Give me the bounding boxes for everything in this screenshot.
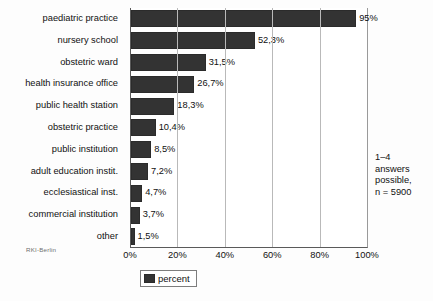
gridline <box>272 8 273 247</box>
bar-row: 18,3% <box>131 95 367 117</box>
bar-row: 3,7% <box>131 204 367 226</box>
bar-row: 8,5% <box>131 139 367 161</box>
annotation-line-2: answers <box>375 164 433 176</box>
bar <box>131 141 151 158</box>
category-label: other <box>0 226 124 248</box>
bar-value-label: 10,4% <box>156 119 185 136</box>
gridline <box>225 8 226 247</box>
bar-chart-figure: paediatric practicenursery schoolobstetr… <box>0 0 433 301</box>
category-label: public health station <box>0 95 124 117</box>
category-label: commercial institution <box>0 204 124 226</box>
bar <box>131 76 194 93</box>
bar-row: 31,5% <box>131 52 367 74</box>
bar-row: 4,7% <box>131 182 367 204</box>
bar-value-label: 18,3% <box>174 97 203 114</box>
category-label: paediatric practice <box>0 8 124 30</box>
plot-area: 95%52,3%31,5%26,7%18,3%10,4%8,5%7,2%4,7%… <box>130 8 368 248</box>
bar-row: 26,7% <box>131 73 367 95</box>
bar-value-label: 31,5% <box>206 54 235 71</box>
bar-series-percent: 95%52,3%31,5%26,7%18,3%10,4%8,5%7,2%4,7%… <box>131 8 367 247</box>
bar <box>131 54 206 71</box>
legend-swatch-percent <box>144 274 155 283</box>
bar <box>131 32 255 49</box>
x-axis-tick-label: 20% <box>168 250 187 260</box>
category-label: nursery school <box>0 30 124 52</box>
bar-value-label: 95% <box>356 10 378 27</box>
bar <box>131 163 148 180</box>
bar-value-label: 7,2% <box>148 163 172 180</box>
chart-legend: percent <box>140 270 197 287</box>
category-label: health insurance office <box>0 73 124 95</box>
legend-label-percent: percent <box>158 273 190 284</box>
category-axis-labels: paediatric practicenursery schoolobstetr… <box>0 8 124 248</box>
x-axis-tick-label: 80% <box>310 250 329 260</box>
x-axis-tick-label: 100% <box>355 250 379 260</box>
bar-value-label: 52,3% <box>255 32 284 49</box>
x-axis-tick-labels: 0%20%40%60%80%100% <box>130 250 368 264</box>
category-label: obstetric practice <box>0 117 124 139</box>
bar-row: 10,4% <box>131 117 367 139</box>
annotation-line-4: n = 5900 <box>375 187 433 199</box>
bar-value-label: 1,5% <box>135 228 159 245</box>
annotation-line-3: possible, <box>375 175 433 187</box>
x-axis-tick-label: 40% <box>215 250 234 260</box>
bar-value-label: 3,7% <box>140 206 164 223</box>
category-label: obstetric ward <box>0 52 124 74</box>
x-axis-tick-label: 0% <box>123 250 136 260</box>
category-label: ecclesiastical inst. <box>0 182 124 204</box>
source-note: RKI-Berlin <box>26 246 56 253</box>
bar-row: 95% <box>131 8 367 30</box>
category-label: public institution <box>0 139 124 161</box>
x-axis-tick-label: 60% <box>263 250 282 260</box>
bar <box>131 98 174 115</box>
bar <box>131 185 142 202</box>
bar-row: 52,3% <box>131 30 367 52</box>
gridline <box>320 8 321 247</box>
bar-value-label: 26,7% <box>194 75 223 92</box>
bar <box>131 207 140 224</box>
chart-annotation: 1–4 answers possible, n = 5900 <box>375 152 433 198</box>
bar-row: 7,2% <box>131 161 367 183</box>
bar-value-label: 4,7% <box>142 184 166 201</box>
bar-row: 1,5% <box>131 226 367 248</box>
gridline <box>177 8 178 247</box>
bar-value-label: 8,5% <box>151 141 175 158</box>
category-label: adult education instit. <box>0 161 124 183</box>
bar <box>131 10 356 27</box>
bar <box>131 119 156 136</box>
annotation-line-1: 1–4 <box>375 152 433 164</box>
